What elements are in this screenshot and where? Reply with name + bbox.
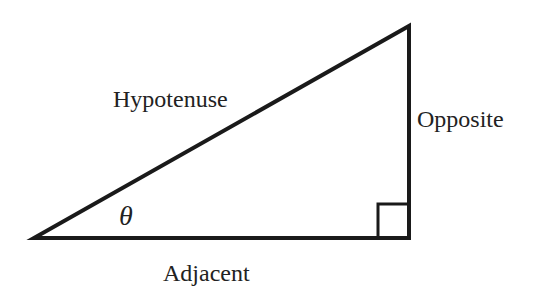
right-angle-marker bbox=[378, 204, 409, 238]
angle-theta-label: θ bbox=[119, 202, 133, 230]
opposite-label: Opposite bbox=[417, 107, 504, 131]
diagram-canvas: Hypotenuse Opposite Adjacent θ bbox=[0, 0, 554, 303]
hypotenuse-label: Hypotenuse bbox=[113, 87, 228, 111]
right-triangle bbox=[34, 26, 409, 238]
triangle-graphic bbox=[0, 0, 554, 303]
adjacent-label: Adjacent bbox=[163, 261, 250, 285]
